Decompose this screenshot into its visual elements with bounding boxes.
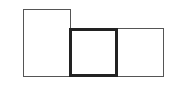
rect-right	[116, 28, 164, 77]
rect-left	[23, 9, 71, 77]
rect-middle-highlighted	[69, 28, 118, 77]
diagram-canvas	[0, 0, 174, 99]
